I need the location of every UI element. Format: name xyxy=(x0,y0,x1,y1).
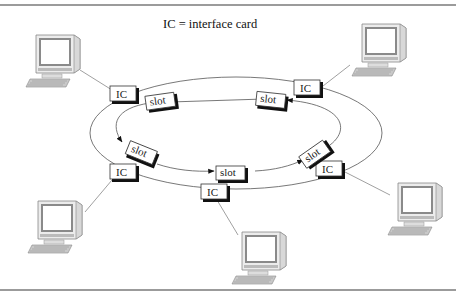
ic-right: IC xyxy=(316,161,345,179)
ic-top-right: IC xyxy=(294,80,323,98)
slot-top-left: slot xyxy=(145,92,179,113)
slot-label: slot xyxy=(220,166,236,178)
link-right xyxy=(345,172,390,195)
link-top-left xyxy=(80,70,112,90)
computer-bottom-right xyxy=(388,183,442,235)
ic-label: IC xyxy=(322,163,333,175)
link-left xyxy=(85,180,112,212)
computer-top-left xyxy=(26,35,80,87)
ic-label: IC xyxy=(300,82,311,94)
diagram-title: IC = interface card xyxy=(163,17,258,31)
computer-top-right xyxy=(352,24,406,76)
ring-network-diagram: IC = interface card IC IC IC xyxy=(0,0,466,300)
slot-label: slot xyxy=(260,92,277,106)
slot-bottom: slot xyxy=(216,166,248,183)
ic-label: IC xyxy=(116,166,127,178)
link-top-right xyxy=(323,65,350,86)
computer-bottom-left xyxy=(28,201,82,253)
ic-left: IC xyxy=(110,164,139,182)
ic-bottom: IC xyxy=(201,184,230,202)
computer-bottom-center xyxy=(232,232,286,284)
link-bottom xyxy=(217,200,238,235)
ic-label: IC xyxy=(207,186,218,198)
ic-top-left: IC xyxy=(110,86,139,104)
slot-label: slot xyxy=(149,94,166,108)
ic-label: IC xyxy=(116,88,127,100)
slot-top-right: slot xyxy=(255,91,289,111)
